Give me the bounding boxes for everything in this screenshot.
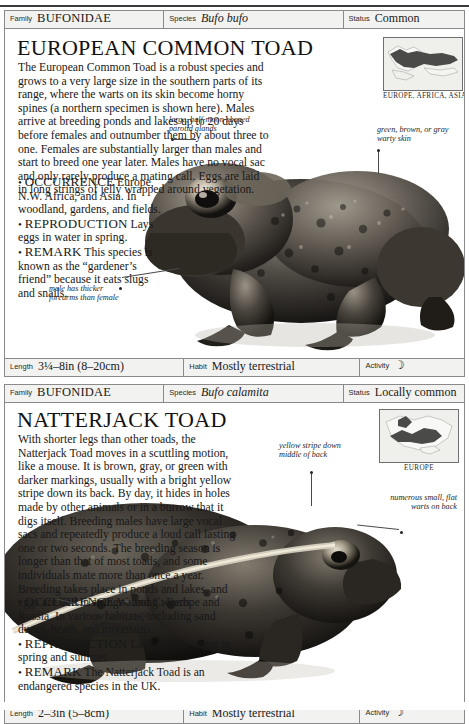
- species-entry-european-common-toad: Family BUFONIDAE Species Bufo bufo Statu…: [4, 10, 465, 378]
- status-label: Status: [349, 388, 370, 397]
- activity-cell: Activity ☽: [360, 359, 464, 376]
- length-label: Length: [10, 709, 33, 718]
- bullet-dot: •: [18, 246, 22, 258]
- species-entry-natterjack-toad: Family BUFONIDAE Species Bufo calamita S…: [4, 384, 465, 710]
- annotation-yellow-stripe: yellow stripe down middle of back: [279, 441, 347, 460]
- activity-label: Activity: [365, 361, 389, 370]
- habit-value: Mostly terrestrial: [212, 359, 295, 374]
- page-title: NATTERJACK TOAD: [17, 407, 227, 433]
- annotation-leader-line: [311, 474, 312, 506]
- species-value: Bufo calamita: [201, 385, 269, 400]
- bullet-occurrence: • OCCURRENCE Europe, N.W. Africa, and As…: [18, 175, 168, 217]
- range-map-graphic: [384, 38, 462, 90]
- family-value: BUFONIDAE: [37, 385, 111, 400]
- range-map: [383, 37, 463, 91]
- annotation-leader-dot: [400, 531, 403, 534]
- annotation-flat-warts: numerous small, flat warts on back: [385, 493, 457, 512]
- bullet-label: REPRODUCTION: [25, 216, 128, 231]
- bullet-dot: •: [18, 638, 22, 650]
- bullet-remark: • REMARK The Natterjack Toad is an endan…: [18, 665, 246, 693]
- bullet-reproduction: • REPRODUCTION Lays eggs in water in spr…: [18, 637, 246, 665]
- species-value: Bufo bufo: [201, 11, 248, 26]
- description-paragraph: With shorter legs than other toads, the …: [18, 433, 236, 610]
- annotation-leader-line: [378, 152, 379, 174]
- length-value: 3¼–8in (8–20cm): [38, 359, 124, 374]
- bullet-dot: •: [18, 218, 22, 230]
- bullet-label: REMARK: [25, 664, 82, 679]
- detail-bullets: • OCCURRENCE Europe, N.W. Africa, and As…: [18, 175, 168, 300]
- annotation-leader-dot: [119, 287, 122, 290]
- bullet-dot: •: [18, 596, 22, 608]
- habit-cell: Habit Mostly terrestrial: [184, 359, 360, 376]
- entry-body: NATTERJACK TOAD With shorter legs than o…: [4, 403, 465, 705]
- entry-header-row: Family BUFONIDAE Species Bufo calamita S…: [4, 384, 465, 403]
- page-top-rule: [0, 5, 469, 7]
- family-cell: Family BUFONIDAE: [5, 11, 164, 28]
- species-label: Species: [169, 14, 196, 23]
- bullet-label: OCCURRENCE: [25, 174, 114, 189]
- bullet-reproduction: • REPRODUCTION Lays eggs in water in spr…: [18, 217, 168, 245]
- annotation-warty-skin: green, brown, or gray warty skin: [377, 125, 461, 144]
- entry-body: EUROPEAN COMMON TOAD The European Common…: [4, 29, 465, 358]
- range-map-caption: EUROPE: [379, 464, 459, 472]
- family-label: Family: [10, 388, 32, 397]
- species-cell: Species Bufo calamita: [164, 385, 343, 402]
- range-map: [379, 409, 459, 463]
- annotation-leader-line: [174, 139, 196, 140]
- range-map-caption: EUROPE, AFRICA, ASIA: [383, 92, 463, 100]
- status-value: Locally common: [375, 385, 457, 400]
- status-label: Status: [349, 14, 370, 23]
- page-title: EUROPEAN COMMON TOAD: [17, 35, 313, 61]
- annotation-male-forearms: male has thicker forearms than female: [49, 284, 123, 303]
- status-cell: Status Common: [344, 11, 464, 28]
- page-bottom-mask: [0, 702, 469, 710]
- family-value: BUFONIDAE: [37, 11, 111, 26]
- entry-header-row: Family BUFONIDAE Species Bufo bufo Statu…: [4, 10, 465, 29]
- bullet-dot: •: [18, 176, 22, 188]
- annotation-short-limbs: short limbs enable Natterjack to run rat…: [91, 611, 175, 639]
- species-label: Species: [169, 388, 196, 397]
- habit-label: Habit: [189, 362, 207, 371]
- habit-label: Habit: [189, 709, 207, 718]
- length-cell: Length 3¼–8in (8–20cm): [5, 359, 184, 376]
- annotation-leader-dot: [83, 613, 86, 616]
- detail-bullets: • OCCURRENCE W. and C. Europe and Russia…: [18, 595, 246, 693]
- status-value: Common: [375, 11, 420, 26]
- entry-footer-row: Length 3¼–8in (8–20cm) Habit Mostly terr…: [4, 358, 465, 377]
- species-cell: Species Bufo bufo: [164, 11, 343, 28]
- bullet-label: REMARK: [25, 244, 82, 259]
- annotation-parotid-glands: large, half-moon-shaped parotid glands: [169, 115, 255, 134]
- family-label: Family: [10, 14, 32, 23]
- range-map-graphic: [380, 410, 458, 462]
- moon-icon: ☽: [394, 359, 405, 371]
- status-cell: Status Locally common: [344, 385, 464, 402]
- bullet-dot: •: [18, 666, 22, 678]
- length-label: Length: [10, 362, 33, 371]
- family-cell: Family BUFONIDAE: [5, 385, 164, 402]
